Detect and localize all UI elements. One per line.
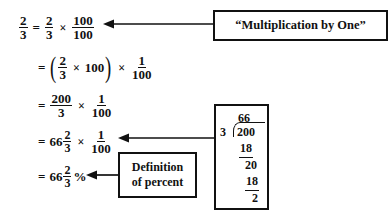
fraction-denominator: 3 xyxy=(57,106,66,119)
fraction-numerator: 1 xyxy=(138,54,147,68)
arrow-to-line4 xyxy=(118,132,215,144)
long-division-dividend: 200 xyxy=(237,125,255,140)
fraction-denominator: 3 xyxy=(45,28,54,41)
fraction-denominator: 100 xyxy=(90,142,112,155)
whole-number-part: 66 xyxy=(49,170,62,183)
fraction-two-thirds-lhs: 2 3 xyxy=(19,14,28,42)
fraction-numerator: 200 xyxy=(50,92,72,106)
fraction-one-hundredth: 1 100 xyxy=(131,54,153,82)
equation-line-5: = 66 2 3 % xyxy=(38,164,86,189)
fraction-numerator: 2 xyxy=(58,54,67,68)
fraction-denominator: 3 xyxy=(63,142,71,154)
fraction-numerator: 2 xyxy=(63,164,71,177)
fraction-numerator: 2 xyxy=(45,14,54,28)
value-one-hundred: 100 xyxy=(85,61,105,74)
fraction-numerator: 1 xyxy=(97,92,106,106)
definition-of-percent-label-line2: of percent xyxy=(132,175,183,190)
long-division-divisor: 3 xyxy=(220,125,226,140)
fraction-denominator: 3 xyxy=(19,28,28,41)
fraction-denominator: 100 xyxy=(72,28,94,41)
worked-example-figure: 2 3 = 2 3 × 100 100 = ( 2 3 × 100 ) × 1 … xyxy=(0,0,390,218)
fraction-two-thirds: 2 3 xyxy=(58,54,67,82)
close-paren: ) xyxy=(105,55,111,80)
fraction-denominator: 3 xyxy=(63,177,71,189)
multiplication-by-one-box: “Multiplication by One” xyxy=(213,10,388,41)
long-division-work: 66 3 200 18 20 18 2 xyxy=(216,106,267,208)
multiplication-sign: × xyxy=(77,136,84,148)
fraction-one-hundredth: 1 100 xyxy=(90,128,112,156)
fraction-denominator: 3 xyxy=(58,68,67,81)
fraction-two-thirds: 2 3 xyxy=(63,129,71,154)
multiplication-sign: × xyxy=(118,62,125,74)
arrow-to-line5 xyxy=(86,169,119,181)
whole-number-part: 66 xyxy=(49,135,62,148)
fraction-two-thirds: 2 3 xyxy=(45,14,54,42)
percent-sign: % xyxy=(73,170,86,183)
long-division-subtrahend-2: 18 xyxy=(245,174,259,191)
long-division-subtrahend-1: 18 xyxy=(239,141,253,158)
multiplication-sign: × xyxy=(78,100,85,112)
equals-sign: = xyxy=(38,135,45,148)
multiplication-by-one-label: “Multiplication by One” xyxy=(235,18,366,33)
multiplication-sign: × xyxy=(59,22,66,34)
equation-line-1: 2 3 = 2 3 × 100 100 xyxy=(18,14,95,42)
arrow-to-line1 xyxy=(103,18,215,30)
fraction-numerator: 100 xyxy=(72,14,94,28)
long-division-box: 66 3 200 18 20 18 2 xyxy=(214,104,269,210)
fraction-two-thirds: 2 3 xyxy=(63,164,71,189)
equals-sign: = xyxy=(33,21,40,34)
fraction-two-hundred-thirds: 200 3 xyxy=(50,92,72,120)
fraction-hundred-over-hundred: 100 100 xyxy=(72,14,94,42)
open-paren: ( xyxy=(50,55,56,80)
multiplication-sign: × xyxy=(73,62,80,74)
definition-of-percent-box: Definition of percent xyxy=(118,152,197,198)
equals-sign: = xyxy=(38,170,45,183)
long-division-remainder-1: 20 xyxy=(245,158,257,173)
equals-sign: = xyxy=(38,99,45,112)
equals-sign: = xyxy=(38,61,45,74)
definition-of-percent-label-line1: Definition xyxy=(132,160,183,175)
equation-line-3: = 200 3 × 1 100 xyxy=(38,92,113,120)
fraction-numerator: 2 xyxy=(63,129,71,142)
equation-line-2: = ( 2 3 × 100 ) × 1 100 xyxy=(38,54,154,82)
long-division-remainder-2: 2 xyxy=(252,191,258,206)
fraction-one-hundredth: 1 100 xyxy=(91,92,113,120)
equation-line-4: = 66 2 3 × 1 100 xyxy=(38,128,113,156)
fraction-denominator: 100 xyxy=(91,106,113,119)
fraction-numerator: 2 xyxy=(19,14,28,28)
fraction-denominator: 100 xyxy=(131,68,153,81)
fraction-numerator: 1 xyxy=(97,128,106,142)
